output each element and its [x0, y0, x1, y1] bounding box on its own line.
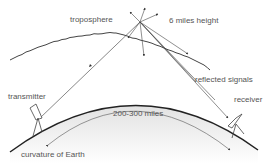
label-earth-curvature: curvature of Earth — [21, 150, 85, 159]
label-height: 6 miles height — [169, 16, 219, 25]
label-receiver: receiver — [234, 95, 263, 104]
label-distance: 200-300 miles — [113, 109, 163, 118]
transmitted-signal — [40, 22, 140, 118]
transmitter-antenna — [30, 104, 42, 136]
label-troposphere: troposphere — [70, 15, 113, 24]
label-transmitter: transmitter — [8, 92, 46, 101]
label-reflected-signals: reflected signals — [195, 75, 253, 84]
troposcatter-diagram: troposphere 6 miles height reflected sig… — [0, 0, 269, 163]
